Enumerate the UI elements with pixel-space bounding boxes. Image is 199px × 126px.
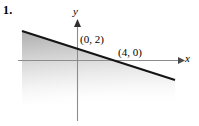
x-intercept-label: (4, 0) xyxy=(118,46,142,58)
coordinate-plot xyxy=(0,0,199,126)
y-axis-label: y xyxy=(73,6,78,17)
math-figure: 1. xyxy=(0,0,199,126)
y-intercept-label: (0, 2) xyxy=(80,33,104,45)
x-axis-label: x xyxy=(185,53,190,64)
